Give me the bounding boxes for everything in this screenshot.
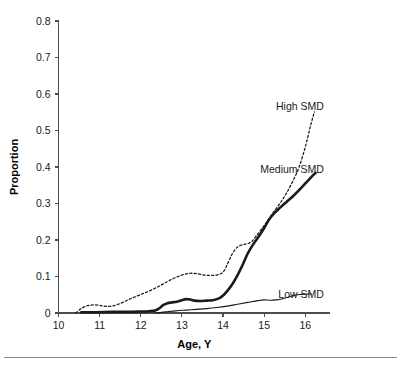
x-axis-tick-labels: 10111213141516: [53, 319, 312, 331]
x-tick-label: 16: [299, 319, 311, 331]
y-tick-label: 0: [45, 307, 51, 319]
y-tick-label: 0.7: [36, 51, 51, 63]
series-label-high-smd: High SMD: [276, 100, 324, 112]
y-axis-title: Proportion: [8, 139, 20, 195]
y-tick-label: 0.4: [36, 161, 51, 173]
y-tick-label: 0.8: [36, 15, 51, 27]
y-tick-label: 0.5: [36, 124, 51, 136]
x-tick-label: 12: [135, 319, 147, 331]
x-tick-label: 10: [53, 319, 65, 331]
series-label-low-smd: Low SMD: [278, 288, 324, 300]
x-tick-label: 15: [258, 319, 270, 331]
y-tick-label: 0.1: [36, 270, 51, 282]
figure-container: 00.10.20.30.40.50.60.70.8 10111213141516…: [0, 0, 401, 371]
x-tick-label: 14: [217, 319, 229, 331]
y-tick-label: 0.6: [36, 88, 51, 100]
x-axis-title: Age, Y: [177, 338, 212, 350]
series-line-high-smd: [76, 112, 315, 313]
series-label-medium-smd: Medium SMD: [260, 163, 324, 175]
y-tick-label: 0.3: [36, 197, 51, 209]
y-axis-tick-labels: 00.10.20.30.40.50.60.70.8: [36, 15, 51, 319]
x-tick-label: 11: [94, 319, 105, 331]
y-tick-label: 0.2: [36, 234, 51, 246]
x-tick-label: 13: [176, 319, 188, 331]
line-chart: 00.10.20.30.40.50.60.70.8 10111213141516…: [0, 0, 401, 371]
